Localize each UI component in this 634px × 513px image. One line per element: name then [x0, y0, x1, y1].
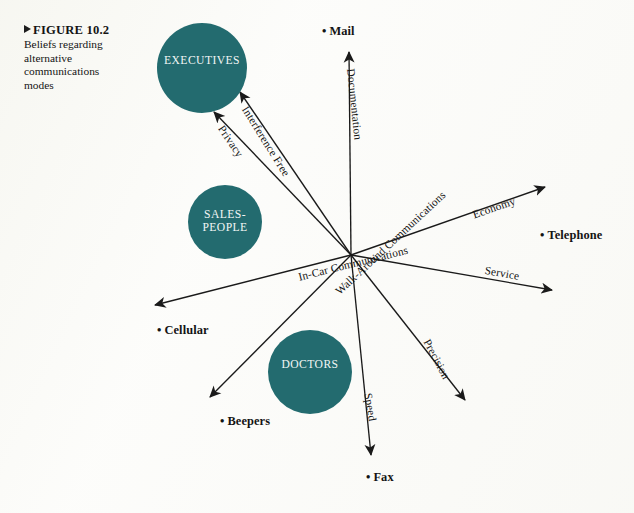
- mode-point: •Mail: [322, 24, 355, 39]
- mode-point-label: Mail: [329, 24, 354, 38]
- mode-point: •Beepers: [220, 414, 270, 429]
- mode-point-label: Beepers: [227, 414, 270, 428]
- attribute-vector: [351, 255, 371, 455]
- group-bubble-group: [157, 23, 352, 414]
- mode-point: •Fax: [366, 470, 394, 485]
- mode-point-dot-icon: •: [220, 414, 224, 428]
- attribute-vector: [155, 255, 351, 305]
- mode-point: •Telephone: [540, 228, 602, 243]
- mode-point-dot-icon: •: [540, 228, 544, 242]
- group-bubble: [268, 330, 352, 414]
- group-bubble: [157, 23, 247, 113]
- mode-point-dot-icon: •: [366, 470, 370, 484]
- group-bubble: [188, 185, 262, 259]
- attribute-vector: [351, 255, 465, 400]
- mode-point-dot-icon: •: [322, 24, 326, 38]
- mode-point-label: Fax: [373, 470, 393, 484]
- figure-page: FIGURE 10.2 Beliefs regarding alternativ…: [0, 0, 634, 513]
- mode-point-label: Telephone: [547, 228, 602, 242]
- mode-point: •Cellular: [157, 323, 209, 338]
- perceptual-map-canvas: [0, 0, 634, 513]
- mode-point-label: Cellular: [164, 323, 208, 337]
- mode-point-dot-icon: •: [157, 323, 161, 337]
